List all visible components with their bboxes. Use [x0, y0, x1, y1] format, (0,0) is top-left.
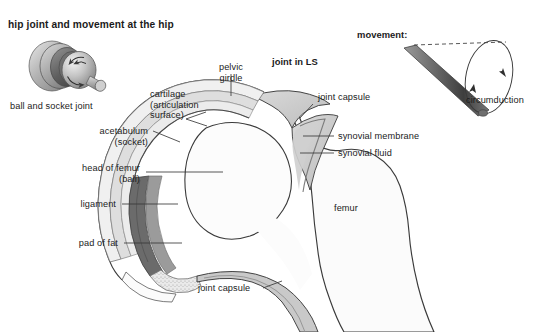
circumduction-arrow-right: [499, 68, 506, 77]
figure-root: hip joint and movement at the hip ball a…: [0, 0, 542, 332]
leader-acetabulum: [153, 131, 180, 142]
ball-and-socket-caption: ball and socket joint: [10, 101, 93, 112]
label-cartilage: cartilage (articulation surface): [150, 89, 199, 121]
joint-cross-section: [98, 80, 434, 332]
label-circumduction: circumduction: [466, 95, 524, 106]
movement-dashed-line: [414, 42, 506, 45]
movement-illustration: [404, 36, 519, 118]
ball-and-socket-illustration: [29, 41, 108, 93]
label-pad-of-fat: pad of fat: [40, 238, 118, 249]
label-synovial-membrane: synovial membrane: [338, 131, 419, 142]
label-joint-capsule-bottom: joint capsule: [198, 283, 250, 294]
joint-in-ls-heading: joint in LS: [272, 57, 318, 68]
label-synovial-fluid: synovial fluid: [338, 148, 392, 159]
movement-heading: movement:: [357, 30, 407, 41]
label-femur: femur: [334, 203, 358, 214]
pad-of-fat: [150, 270, 201, 293]
label-acetabulum: acetabulum (socket): [48, 126, 148, 147]
movement-pivot: [479, 110, 488, 116]
circumduction-arrow-left: [469, 84, 476, 93]
label-joint-capsule-top: joint capsule: [318, 92, 370, 103]
label-pelvic-girdle: pelvic girdle: [206, 62, 256, 83]
label-ligament: ligament: [46, 199, 116, 210]
figure-title: hip joint and movement at the hip: [8, 20, 174, 31]
label-head-of-femur: head of femur (ball): [40, 163, 140, 184]
